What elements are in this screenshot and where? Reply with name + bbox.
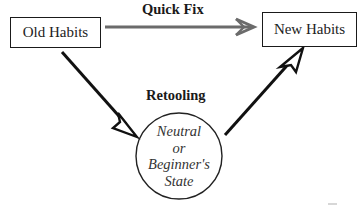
new-habits-box: New Habits [262,12,357,47]
old-habits-box: Old Habits [10,17,101,48]
neutral-state-line-3: Beginner's [148,156,210,173]
retooling-label: Retooling [146,87,206,104]
neutral-state-line-4: State [165,173,194,190]
old-habits-label: Old Habits [23,24,88,41]
quick-fix-arrow [105,19,254,35]
neutral-state-line-2: or [173,140,186,157]
neutral-state-line-1: Neutral [157,123,201,140]
quick-fix-label: Quick Fix [142,1,204,18]
habit-change-diagram: Old Habits New Habits Quick Fix Retoolin… [0,0,360,206]
retooling-arrow [62,52,137,137]
neutral-state-text: Neutral or Beginner's State [136,113,222,199]
neutral-to-new-arrow [225,48,303,135]
new-habits-label: New Habits [274,21,345,38]
